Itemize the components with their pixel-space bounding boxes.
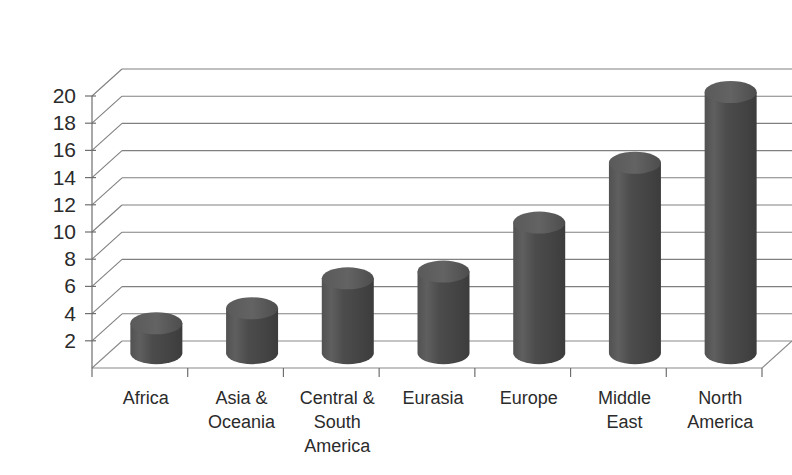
y-axis-label-18: 18 (53, 111, 76, 134)
category-label-line: South (314, 412, 361, 432)
category-label-line: Oceania (208, 412, 276, 432)
y-axis-label-2: 2 (64, 329, 76, 352)
bar-chart-3d: 2468101214161820 AfricaAsia &OceaniaCent… (0, 0, 792, 475)
category-label-line: North (698, 388, 742, 408)
x-axis-category-labels: AfricaAsia &OceaniaCentral &SouthAmerica… (123, 388, 754, 456)
gridline-ramp-14 (92, 151, 122, 178)
floor-left-edge (92, 341, 122, 368)
y-axis-label-8: 8 (64, 247, 76, 270)
bar-cylinder (418, 261, 470, 365)
chart-container: 2468101214161820 AfricaAsia &OceaniaCent… (0, 0, 792, 475)
cylinder-body (609, 163, 661, 364)
category-label-line: Eurasia (402, 388, 464, 408)
y-axis-label-12: 12 (53, 193, 76, 216)
category-label-line: Africa (123, 388, 170, 408)
bar-cylinder (226, 297, 278, 364)
bar-cylinder (322, 267, 374, 364)
category-label-line: Central & (300, 388, 375, 408)
category-label-line: Asia & (216, 388, 268, 408)
bar-cylinder (609, 152, 661, 364)
category-label-line: America (304, 436, 371, 456)
cylinder-top-cap (418, 261, 470, 283)
bar-cylinder (705, 81, 757, 364)
y-axis-label-4: 4 (64, 302, 76, 325)
gridline-ramp-20 (92, 69, 122, 96)
x-axis-category-label: Central &SouthAmerica (300, 388, 375, 456)
cylinder-body (513, 223, 565, 365)
gridline-ramp-10 (92, 205, 122, 232)
x-axis-category-label: Asia &Oceania (208, 388, 276, 432)
cylinder-body (705, 92, 757, 364)
y-axis-label-10: 10 (53, 220, 76, 243)
y-axis-label-6: 6 (64, 274, 76, 297)
gridline-ramp-8 (92, 232, 122, 259)
cylinder-top-cap (513, 212, 565, 234)
y-axis (85, 96, 96, 368)
cylinder-top-cap (130, 312, 182, 334)
category-label-line: East (606, 412, 642, 432)
cylinder-top-cap (705, 81, 757, 103)
gridline-ramp-12 (92, 178, 122, 205)
cylinder-body (418, 272, 470, 365)
x-axis-category-label: Africa (123, 388, 170, 408)
gridline-ramp-4 (92, 287, 122, 314)
bar-cylinder (513, 212, 565, 365)
cylinder-top-cap (609, 152, 661, 174)
x-axis-category-label: Europe (500, 388, 558, 408)
cylinder-top-cap (322, 267, 374, 289)
x-axis-category-label: Eurasia (402, 388, 464, 408)
y-axis-label-16: 16 (53, 138, 76, 161)
floor-right-edge (762, 341, 792, 368)
gridline-ramp-18 (92, 96, 122, 123)
gridline-ramp-16 (92, 123, 122, 150)
x-axis-category-label: NorthAmerica (687, 388, 754, 432)
category-label-line: Middle (598, 388, 651, 408)
cylinder-body (322, 278, 374, 364)
cylinder-top-cap (226, 297, 278, 319)
gridline-ramp-2 (92, 314, 122, 341)
y-axis-tick-labels: 2468101214161820 (53, 84, 77, 352)
x-axis-category-label: MiddleEast (598, 388, 651, 432)
gridline-ramp-6 (92, 259, 122, 286)
x-axis-ticks (92, 368, 762, 377)
bar-cylinder (130, 312, 182, 364)
category-label-line: Europe (500, 388, 558, 408)
y-axis-label-14: 14 (53, 166, 77, 189)
y-axis-label-20: 20 (53, 84, 76, 107)
category-label-line: America (687, 412, 754, 432)
